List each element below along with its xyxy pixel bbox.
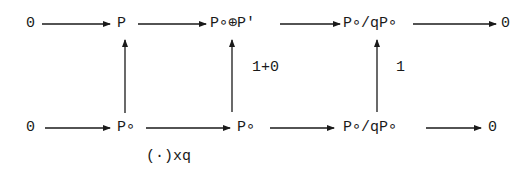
bottom-map-label: (·)xq xyxy=(146,149,191,165)
top-node-4: 0 xyxy=(501,16,510,32)
bottom-node-4: 0 xyxy=(488,120,497,136)
top-node-1: P xyxy=(117,16,126,32)
bottom-node-1: P∘ xyxy=(117,120,135,136)
top-node-3: P∘/qP∘ xyxy=(343,16,397,32)
bottom-node-3: P∘/qP∘ xyxy=(343,120,397,136)
arrows-layer xyxy=(0,0,529,176)
vertical-label-3: 1 xyxy=(396,60,405,76)
top-node-0: 0 xyxy=(26,16,35,32)
top-node-2: P∘⊕P' xyxy=(210,16,255,32)
bottom-node-2: P∘ xyxy=(237,120,255,136)
vertical-label-2: 1+0 xyxy=(252,60,279,76)
commutative-diagram: 0 P P∘⊕P' P∘/qP∘ 0 1+0 1 0 P∘ P∘ P∘/qP∘ … xyxy=(0,0,529,176)
bottom-node-0: 0 xyxy=(26,120,35,136)
